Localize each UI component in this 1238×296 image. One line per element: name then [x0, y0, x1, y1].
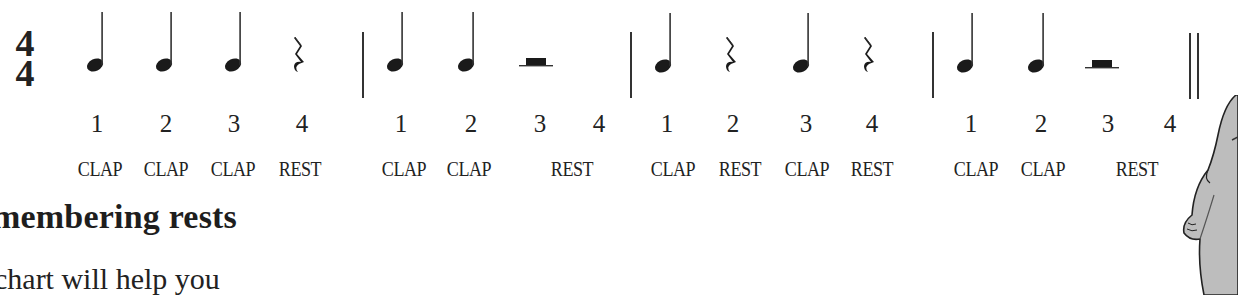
barline-2	[630, 32, 632, 98]
measure-4	[955, 13, 1119, 75]
beat-number: 2	[1026, 110, 1056, 138]
action-label: CLAP	[782, 154, 831, 184]
beat-number: 1	[386, 110, 416, 138]
quarter-rest-icon	[864, 37, 874, 72]
half-rest-icon	[519, 58, 553, 66]
action-label: CLAP	[379, 154, 428, 184]
quarter-note-icon	[223, 12, 243, 74]
barline-1	[362, 32, 364, 98]
quarter-note-icon	[653, 13, 673, 75]
action-label: CLAP	[75, 154, 124, 184]
quarter-note-icon	[955, 13, 975, 75]
action-label: CLAP	[1018, 154, 1067, 184]
beat-number: 3	[1093, 110, 1123, 138]
section-heading: membering rests	[0, 198, 237, 236]
action-label: REST	[1112, 154, 1161, 184]
quarter-note-icon	[154, 12, 174, 74]
quarter-note-icon	[456, 12, 476, 74]
action-label: REST	[715, 154, 764, 184]
quarter-note-icon	[385, 12, 405, 74]
measure-2	[385, 12, 553, 74]
beat-number: 4	[287, 110, 317, 138]
quarter-rest-icon	[294, 37, 304, 72]
half-rest-icon	[1085, 60, 1119, 68]
quarter-rest-icon	[726, 37, 736, 72]
beat-number: 1	[82, 110, 112, 138]
action-label: CLAP	[208, 154, 257, 184]
measure-3	[653, 13, 874, 75]
beat-number: 3	[219, 110, 249, 138]
beat-number: 4	[857, 110, 887, 138]
beat-number: 4	[584, 110, 614, 138]
beat-number: 2	[151, 110, 181, 138]
action-label: CLAP	[141, 154, 190, 184]
quarter-note-icon	[1026, 13, 1046, 75]
action-label: REST	[847, 154, 896, 184]
rhythm-staff	[0, 0, 1226, 110]
quarter-note-icon	[791, 13, 811, 75]
measure-1	[85, 12, 304, 74]
beat-number: 1	[956, 110, 986, 138]
beat-number: 2	[456, 110, 486, 138]
cartoon-character-illustration	[1178, 95, 1238, 295]
barline-3	[932, 32, 934, 98]
final-barline-right	[1197, 33, 1199, 99]
action-label: CLAP	[444, 154, 493, 184]
action-label: REST	[547, 154, 596, 184]
beat-number: 3	[791, 110, 821, 138]
beat-number: 1	[652, 110, 682, 138]
quarter-note-icon	[85, 12, 105, 74]
final-barline-left	[1189, 33, 1191, 99]
section-body-text: chart will help you	[0, 262, 220, 296]
beat-number: 3	[525, 110, 555, 138]
action-label: CLAP	[648, 154, 697, 184]
action-label: CLAP	[951, 154, 1000, 184]
action-label: REST	[275, 154, 324, 184]
beat-number: 2	[718, 110, 748, 138]
